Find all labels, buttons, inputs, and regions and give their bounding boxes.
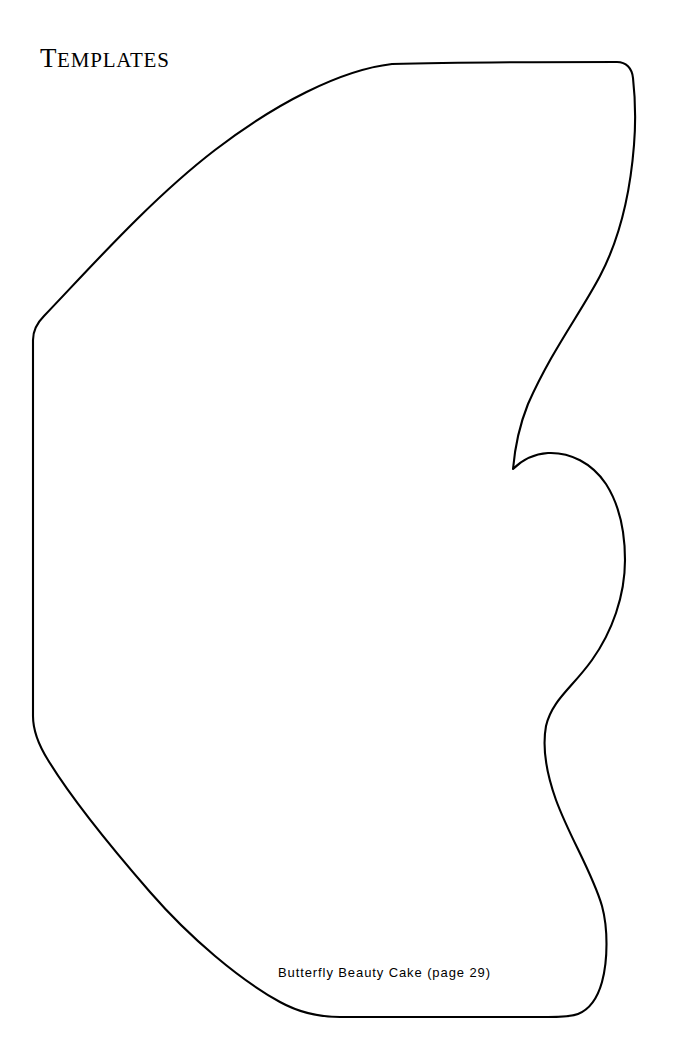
butterfly-wing-template-outline [33, 62, 635, 1017]
template-page: TEMPLATES Butterfly Beauty Cake (page 29… [0, 0, 678, 1054]
template-caption: Butterfly Beauty Cake (page 29) [278, 965, 491, 981]
template-shape-canvas [0, 0, 678, 1054]
